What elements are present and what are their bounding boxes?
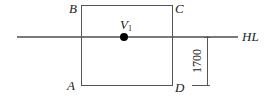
corner-label-b: B — [69, 1, 77, 16]
dimension-label: 1700 — [190, 49, 204, 73]
elevation-diagram: 1700 V1 B C A D HL — [0, 0, 274, 103]
corner-label-d: D — [174, 80, 185, 95]
point-label: V1 — [120, 17, 132, 33]
point-v1-dot — [120, 33, 128, 41]
corner-label-a: A — [66, 78, 75, 93]
hl-label: HL — [241, 29, 259, 44]
corner-label-c: C — [175, 1, 184, 16]
